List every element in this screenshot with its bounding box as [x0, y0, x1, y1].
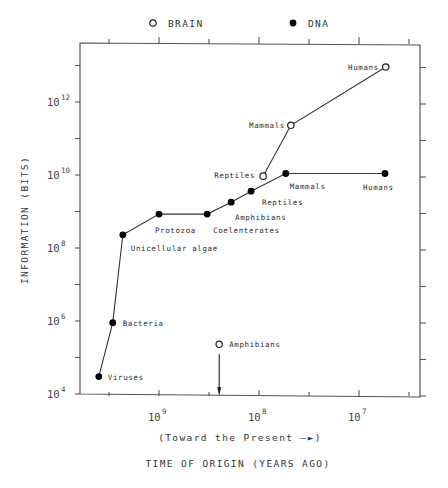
dna-point-label: Amphibians: [235, 213, 286, 222]
dna-point: [204, 211, 211, 218]
x-tick-label: 107: [348, 407, 367, 423]
dna-point: [228, 199, 235, 206]
dna-point-label: Protozoa: [155, 226, 196, 235]
brain-point-label: Amphibians: [229, 340, 280, 349]
x-axis-sublabel: (Toward the Present —►): [158, 432, 322, 443]
brain-point: [288, 122, 294, 128]
dna-point-label: Unicellular algae: [131, 244, 218, 253]
brain-point-label: Reptiles: [214, 171, 255, 180]
y-tick-label-exponent: 8: [61, 239, 66, 248]
chart: BRAIN DNA 10910810710410610810101012 (To…: [0, 0, 448, 488]
dna-point-label: Coelenterates: [213, 226, 280, 235]
x-tick-label: 109: [148, 407, 167, 423]
dna-point: [282, 170, 289, 177]
dna-point: [95, 373, 102, 380]
x-tick-label-base: 10: [248, 411, 261, 423]
y-tick-label-base: 10: [47, 169, 60, 181]
dna-point: [156, 211, 163, 218]
legend: BRAIN DNA: [150, 18, 330, 29]
y-tick-label-exponent: 12: [61, 93, 70, 102]
x-tick-label-exponent: 7: [362, 407, 367, 416]
y-tick-label: 1012: [47, 93, 70, 108]
x-tick-label-base: 10: [148, 411, 161, 423]
dna-point: [248, 188, 255, 195]
dna-point: [382, 170, 389, 177]
legend-brain-marker-icon: [150, 20, 156, 26]
y-axis-title: INFORMATION (BITS): [19, 156, 30, 284]
dna-point: [109, 319, 116, 326]
legend-dna-label: DNA: [308, 18, 329, 29]
y-tick-label-base: 10: [47, 242, 60, 254]
y-tick-label-base: 10: [47, 96, 60, 108]
point-labels-layer: VirusesBacteriaUnicellular algaeProtozoa…: [108, 63, 394, 382]
axis-tick-labels: 10910810710410610810101012: [47, 93, 367, 423]
brain-point-label: Humans: [348, 63, 379, 72]
y-tick-label: 108: [47, 239, 66, 254]
y-tick-label: 1010: [47, 166, 71, 181]
dna-point-label: Reptiles: [262, 198, 303, 207]
x-tick-label-exponent: 9: [162, 407, 167, 416]
y-tick-label-exponent: 4: [61, 385, 66, 394]
x-tick-label-exponent: 8: [262, 407, 267, 416]
dna-point-label: Mammals: [290, 182, 326, 191]
brain-point-label: Mammals: [249, 121, 285, 130]
legend-dna-marker-icon: [290, 20, 297, 27]
y-tick-label-exponent: 6: [61, 312, 66, 321]
y-tick-label-base: 10: [47, 315, 60, 327]
x-axis-title: TIME OF ORIGIN (YEARS AGO): [145, 458, 330, 469]
x-tick-label-base: 10: [348, 411, 361, 423]
x-tick-label: 108: [248, 407, 267, 423]
brain-point: [260, 173, 266, 179]
y-tick-label: 106: [47, 312, 66, 327]
dna-point-label: Bacteria: [123, 319, 164, 328]
y-tick-label-exponent: 10: [61, 166, 71, 175]
y-tick-label-base: 10: [47, 388, 60, 400]
dna-point-label: Viruses: [108, 373, 144, 382]
brain-point: [216, 341, 222, 347]
legend-brain-label: BRAIN: [168, 18, 204, 29]
y-tick-label: 104: [47, 385, 66, 400]
dna-point-label: Humans: [363, 183, 394, 192]
brain-point: [383, 64, 389, 70]
dna-point: [119, 231, 126, 238]
